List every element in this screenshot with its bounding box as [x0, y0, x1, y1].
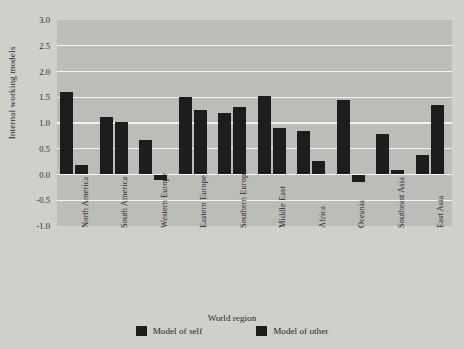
x-axis-tick-label: Western Europe: [160, 173, 169, 228]
bar: [273, 128, 286, 174]
bar: [139, 140, 152, 175]
legend-swatch-icon: [256, 326, 267, 336]
gridline: [57, 71, 452, 72]
y-axis-tick-label: 0.5: [2, 144, 50, 154]
x-axis-tick-label: Middle East: [278, 186, 287, 228]
legend-label: Model of other: [273, 326, 328, 336]
x-axis-tick-label: Southeast Asia: [397, 177, 406, 228]
chart-figure: Internal working models 3.02.52.01.51.00…: [0, 0, 464, 349]
x-axis-tick-label: South America: [120, 177, 129, 228]
x-axis-tick-label: Africa: [318, 206, 327, 228]
bar: [391, 170, 404, 174]
bar: [60, 92, 73, 174]
x-axis-tick-label: East Asia: [436, 196, 445, 228]
bar: [194, 110, 207, 175]
y-axis-tick-label: 0.0: [2, 170, 50, 180]
legend-item: Model of self: [136, 326, 203, 336]
bar: [100, 117, 113, 174]
legend-swatch-icon: [136, 326, 147, 336]
bar: [179, 97, 192, 175]
bar: [376, 134, 389, 174]
gridline: [57, 97, 452, 98]
y-axis-tick-label: -1.0: [2, 221, 50, 231]
plot-area: [57, 20, 452, 226]
bar: [233, 107, 246, 174]
x-axis-tick-label: Oceania: [357, 200, 366, 228]
bar: [337, 100, 350, 175]
legend-label: Model of self: [153, 326, 203, 336]
y-axis-tick-label: 2.5: [2, 41, 50, 51]
bar: [115, 122, 128, 175]
legend-item: Model of other: [256, 326, 328, 336]
bar: [297, 131, 310, 175]
y-axis-tick-label: 1.5: [2, 92, 50, 102]
x-axis-tick-label: Southern Europe: [239, 170, 248, 228]
x-axis-tick-label: North America: [81, 177, 90, 228]
bar: [352, 175, 365, 183]
bar: [258, 96, 271, 174]
chart-legend: Model of selfModel of other: [0, 326, 464, 336]
bar: [312, 161, 325, 175]
x-axis-tick-label: Eastern Europe: [199, 175, 208, 228]
y-axis-tick-label: -0.5: [2, 195, 50, 205]
gridline: [57, 200, 452, 201]
gridline: [57, 45, 452, 46]
x-axis-title: World region: [0, 313, 464, 323]
y-axis-tick-label: 2.0: [2, 67, 50, 77]
y-axis-tick-label: 1.0: [2, 118, 50, 128]
bar: [416, 155, 429, 175]
y-axis-tick-label: 3.0: [2, 15, 50, 25]
bar: [431, 105, 444, 175]
bar: [75, 165, 88, 174]
bar: [218, 113, 231, 175]
